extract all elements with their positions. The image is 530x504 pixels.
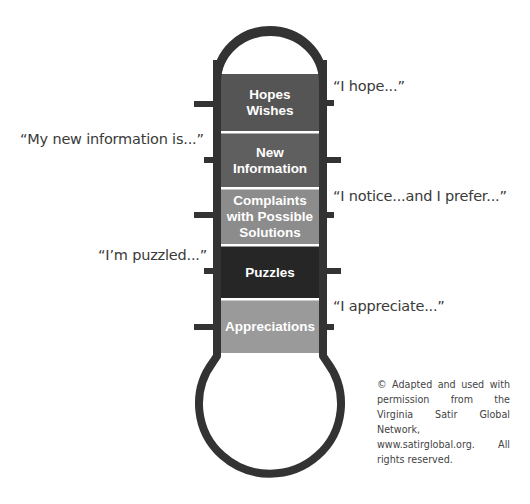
- quote-hopes: “I hope...”: [333, 78, 405, 94]
- label-line: Hopes: [246, 87, 293, 103]
- temperature-reading-diagram: Hopes Wishes New Information Complaints …: [0, 0, 530, 504]
- tick-right: [326, 268, 341, 274]
- quote-new-information: “My new information is...”: [20, 131, 204, 147]
- tick-right: [326, 212, 334, 218]
- section-label-hopes: Hopes Wishes: [221, 74, 319, 131]
- section-label-new-information: New Information: [221, 134, 319, 187]
- tick-left: [194, 324, 214, 330]
- quote-puzzles: “I’m puzzled...”: [98, 247, 207, 263]
- label-line: with Possible: [227, 209, 313, 225]
- quote-appreciations: “I appreciate...”: [333, 298, 445, 314]
- tick-left: [204, 157, 214, 163]
- label-line: Puzzles: [245, 265, 295, 281]
- tick-right: [326, 324, 334, 330]
- tick-right: [326, 100, 334, 106]
- label-line: Information: [233, 161, 307, 177]
- label-line: Wishes: [246, 103, 293, 119]
- section-label-puzzles: Puzzles: [221, 247, 319, 298]
- thermometer-stem-right: [319, 74, 327, 356]
- section-label-complaints: Complaints with Possible Solutions: [221, 190, 319, 244]
- label-line: Solutions: [227, 225, 313, 241]
- label-line: Appreciations: [225, 319, 315, 335]
- quote-complaints: “I notice...and I prefer...”: [333, 188, 507, 204]
- label-line: Complaints: [227, 193, 313, 209]
- tick-left: [194, 212, 214, 218]
- tick-right: [326, 157, 341, 163]
- copyright-credit: © Adapted and used with permission from …: [377, 377, 510, 467]
- thermometer-bulb: [199, 354, 341, 474]
- tick-left: [194, 101, 214, 107]
- section-label-appreciations: Appreciations: [221, 301, 319, 353]
- tick-left: [204, 268, 214, 274]
- label-line: New: [233, 145, 307, 161]
- thermometer-stem-left: [213, 74, 221, 356]
